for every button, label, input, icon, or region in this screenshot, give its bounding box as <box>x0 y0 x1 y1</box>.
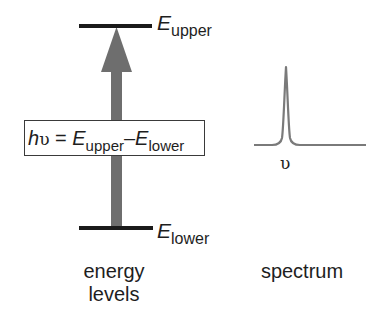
equation-upper-subscript: upper <box>86 137 124 154</box>
equation-lower-subscript: lower <box>148 137 184 154</box>
energy-diagram: Eupper Elower hυ = Eupper–Elower υ energ… <box>0 0 384 314</box>
equation-text: hυ = Eupper–Elower <box>28 128 184 148</box>
lower-level-subscript: lower <box>171 230 209 247</box>
spectrum-curve <box>254 67 366 145</box>
spectrum-caption: spectrum <box>254 261 350 281</box>
planck-constant-symbol: h <box>28 127 39 149</box>
equals-sign: = <box>49 127 72 149</box>
arrow-head-icon <box>101 27 132 72</box>
spectrum-peak-label: υ <box>280 155 290 172</box>
frequency-symbol: υ <box>39 129 49 149</box>
minus-sign: – <box>124 127 135 149</box>
caption-line-energy: energy <box>74 261 154 281</box>
equation-box: hυ = Eupper–Elower <box>24 120 205 156</box>
upper-level-line <box>79 24 152 28</box>
lower-level-line <box>79 226 153 230</box>
equation-e-lower: E <box>135 127 148 149</box>
lower-level-label: Elower <box>157 220 209 241</box>
equation-e-upper: E <box>72 127 85 149</box>
energy-levels-caption: energy levels <box>74 261 154 304</box>
upper-level-subscript: upper <box>171 22 212 39</box>
caption-line-levels: levels <box>74 284 154 304</box>
upper-level-symbol: E <box>157 11 171 34</box>
lower-level-symbol: E <box>157 219 171 242</box>
upper-level-label: Eupper <box>157 12 212 33</box>
